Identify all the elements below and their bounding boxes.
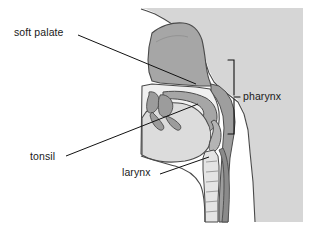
larynx-trachea — [203, 148, 229, 222]
label-soft-palate: soft palate — [14, 27, 64, 38]
label-tonsil: tonsil — [30, 151, 55, 162]
diagram-canvas: soft palate tonsil larynx pharynx — [0, 0, 312, 231]
label-larynx: larynx — [122, 167, 151, 178]
label-pharynx: pharynx — [243, 91, 281, 102]
